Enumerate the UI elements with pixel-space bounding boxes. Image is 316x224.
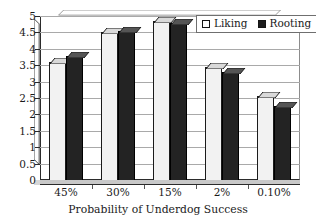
y-axis-tick-label: 1.5 [2,126,36,136]
bar-top-face [67,52,84,57]
y-axis-tick-label: 3.5 [2,60,36,70]
x-axis-tick-label: 30% [92,186,144,198]
bar-rect [153,21,170,180]
bar-liking[interactable] [205,67,222,180]
bar-rooting[interactable] [222,72,239,180]
legend-item-rooting: Rooting [258,18,312,29]
y-axis-tick-label: 1 [2,142,36,152]
bar-group [196,16,248,180]
bar-rect [101,32,118,180]
bar-chart: 54.543.532.521.510.50 45%30%15%2%0.10% P… [0,0,316,224]
bar-rooting[interactable] [118,31,135,180]
bar-liking[interactable] [153,21,170,180]
bar-liking[interactable] [257,96,274,180]
bar-rect [66,56,83,180]
bar-rect [257,96,274,180]
y-axis-tick-label: 5 [2,11,36,21]
bar-liking[interactable] [101,32,118,180]
bar-top-face [102,28,119,33]
x-axis-title: Probability of Underdog Success [0,203,316,216]
legend-label-rooting: Rooting [270,18,312,29]
bar-rooting[interactable] [170,23,187,180]
x-axis-tick-label: 0.10% [248,186,300,198]
bar-top-face [119,27,136,32]
chart-legend: Liking Rooting [196,15,316,33]
bar-rect [205,67,222,180]
x-axis-tick-label: 2% [196,186,248,198]
y-axis-tick-label: 0.5 [2,159,36,169]
bar-groups [40,16,300,180]
bar-top-face [258,92,275,97]
legend-label-liking: Liking [214,18,248,29]
bar-rect [118,31,135,180]
bar-top-face [50,58,67,63]
bar-rect [49,62,66,180]
white-square-icon [202,20,210,28]
bar-top-face [154,17,171,22]
legend-item-liking: Liking [202,18,248,29]
y-axis-tick-label: 4.5 [2,27,36,37]
bar-top-face [223,68,240,73]
x-axis-tick-label: 45% [40,186,92,198]
x-axis-tick-label: 15% [144,186,196,198]
black-square-icon [258,20,266,28]
y-axis-tick-label: 2 [2,109,36,119]
y-axis-tick-label: 0 [2,175,36,185]
bar-rooting[interactable] [66,56,83,180]
bar-group [40,16,92,180]
bar-rooting[interactable] [274,106,291,180]
bar-group [144,16,196,180]
bar-top-face [275,102,292,107]
plot-floor-3d [40,180,300,185]
bar-group [92,16,144,180]
y-axis-tick-label: 4 [2,44,36,54]
bar-rect [222,72,239,180]
y-axis-tick-label: 2.5 [2,93,36,103]
x-axis-labels: 45%30%15%2%0.10% [40,186,300,198]
bar-rect [170,23,187,180]
y-axis-tick-label: 3 [2,77,36,87]
bar-top-face [171,19,188,24]
bar-group [248,16,300,180]
bar-liking[interactable] [49,62,66,180]
bar-rect [274,106,291,180]
plot-area [40,16,300,180]
bar-top-face [206,63,223,68]
